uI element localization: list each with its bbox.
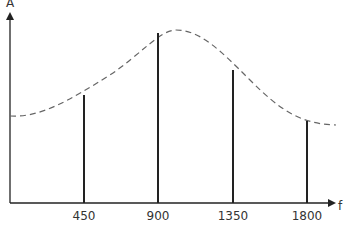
tick-label-1800: 1800 bbox=[292, 209, 323, 223]
tick-label-450: 450 bbox=[73, 209, 96, 223]
spectrum-diagram: A f 450 900 1350 1800 bbox=[0, 0, 346, 226]
tick-label-900: 900 bbox=[147, 209, 170, 223]
envelope-curve bbox=[10, 30, 336, 125]
x-axis-label: f bbox=[338, 199, 343, 213]
y-axis-label: A bbox=[6, 0, 15, 10]
tick-label-1350: 1350 bbox=[218, 209, 249, 223]
